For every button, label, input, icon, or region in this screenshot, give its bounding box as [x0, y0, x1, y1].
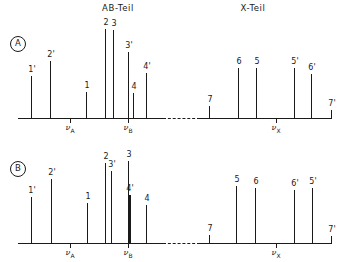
- peak-b-1p: [31, 197, 32, 243]
- peak-label-b-1p: 1': [28, 186, 35, 195]
- peak-label-a-1: 1: [84, 81, 89, 90]
- peak-b-3p: [111, 171, 112, 243]
- peak-b-6: [255, 188, 256, 243]
- reference-label-b-nu-a: νA: [66, 248, 75, 259]
- peak-label-a-5: 5: [254, 57, 259, 66]
- column-header-ab-teil: AB-Teil: [102, 3, 134, 13]
- peak-a-2p: [50, 61, 51, 118]
- peak-label-a-5p: 5': [291, 57, 298, 66]
- peak-b-7p: [331, 236, 332, 243]
- peak-a-6p: [311, 74, 312, 118]
- peak-a-2: [105, 29, 106, 118]
- baseline-a-left: [18, 118, 163, 119]
- column-header-x-teil: X-Teil: [241, 3, 266, 13]
- peak-label-a-6: 6: [236, 57, 241, 66]
- peak-label-b-2p: 2': [48, 168, 55, 177]
- peak-a-3: [113, 30, 114, 118]
- peak-b-1: [87, 203, 88, 243]
- peak-label-b-3: 3: [126, 150, 131, 159]
- peak-label-a-7: 7: [207, 95, 212, 104]
- peak-a-1: [86, 92, 87, 118]
- peak-label-b-1: 1: [85, 192, 90, 201]
- peak-b-7: [209, 235, 210, 243]
- panel-tag-a: A: [10, 36, 26, 52]
- peak-a-6: [238, 68, 239, 118]
- peak-b-5p: [312, 188, 313, 243]
- reference-label-b-nu-x: νX: [272, 248, 281, 259]
- peak-a-5p: [294, 68, 295, 118]
- peak-a-1p: [31, 76, 32, 118]
- baseline-a-gap: [163, 118, 200, 119]
- peak-b-2: [105, 163, 106, 243]
- reference-label-a-nu-b: νB: [124, 123, 133, 134]
- peak-b-6p: [294, 190, 295, 243]
- peak-a-4p: [146, 73, 147, 118]
- peak-a-3p: [128, 52, 129, 118]
- peak-b-4: [146, 205, 147, 243]
- peak-label-a-1p: 1': [28, 65, 35, 74]
- peak-label-a-6p: 6': [308, 63, 315, 72]
- peak-label-b-3p: 3': [108, 160, 115, 169]
- baseline-b-left: [18, 243, 163, 244]
- peak-label-b-6: 6: [253, 177, 258, 186]
- peak-label-b-7p: 7': [328, 225, 335, 234]
- peak-b-5: [236, 186, 237, 243]
- peak-label-a-4: 4: [131, 82, 136, 91]
- peak-label-a-2p: 2': [47, 50, 54, 59]
- peak-label-b-4p: 4': [126, 184, 133, 193]
- reference-label-a-nu-a: νA: [66, 123, 75, 134]
- peak-label-b-5: 5: [234, 175, 239, 184]
- baseline-b-right: [200, 243, 332, 244]
- peak-label-b-6p: 6': [291, 179, 298, 188]
- peak-label-a-3: 3: [111, 19, 116, 28]
- panel-tag-b: B: [10, 161, 26, 177]
- peak-label-b-4: 4: [144, 194, 149, 203]
- peak-a-7: [209, 106, 210, 118]
- baseline-a-right: [200, 118, 332, 119]
- peak-label-b-5p: 5': [309, 177, 316, 186]
- peak-label-a-7p: 7': [328, 99, 335, 108]
- peak-label-a-3p: 3': [125, 41, 132, 50]
- peak-a-7p: [331, 110, 332, 118]
- peak-label-a-2: 2: [103, 18, 108, 27]
- reference-label-a-nu-x: νX: [272, 123, 281, 134]
- peak-b-2p: [51, 179, 52, 243]
- peak-b-4p: [129, 195, 131, 243]
- reference-label-b-nu-b: νB: [124, 248, 133, 259]
- figure-canvas: AB-TeilX-TeilAνAνBνX1'2'1233'44'7655'6'7…: [0, 0, 346, 262]
- baseline-b-gap: [163, 243, 200, 244]
- peak-a-4: [133, 93, 134, 118]
- peak-label-b-7: 7: [207, 224, 212, 233]
- peak-label-a-4p: 4': [143, 62, 150, 71]
- peak-a-5: [256, 68, 257, 118]
